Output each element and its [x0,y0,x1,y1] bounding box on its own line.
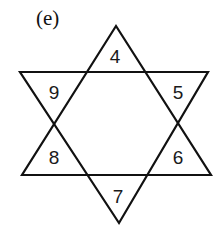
number-lower-right: 6 [173,147,184,168]
number-bottom: 7 [113,186,124,207]
number-upper-right: 5 [173,82,184,103]
number-upper-left: 9 [49,82,60,103]
star-of-david-diagram: 4 5 6 7 8 9 [0,0,218,249]
number-top: 4 [110,46,121,67]
number-lower-left: 8 [49,147,60,168]
